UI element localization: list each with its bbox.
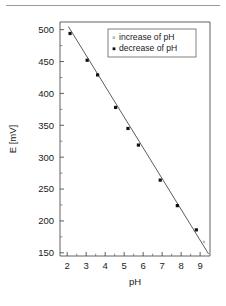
legend-marker-increase: [113, 36, 116, 39]
x-tick-label: 9: [197, 260, 202, 271]
y-tick-label: 300: [38, 152, 54, 163]
data-point: [203, 241, 205, 243]
regression-line: [68, 26, 208, 254]
chart-canvas: 150200250300350400450500 23456789 pH E […: [0, 0, 226, 306]
y-axis-title: E [mV]: [7, 125, 18, 154]
data-point: [126, 127, 129, 130]
x-tick-label: 6: [141, 260, 146, 271]
x-axis-title: pH: [129, 276, 141, 287]
y-tick-label: 200: [38, 215, 54, 226]
x-tick-label: 2: [65, 260, 70, 271]
y-tick-label: 150: [38, 247, 54, 258]
data-point: [176, 204, 179, 207]
ph-calibration-chart: 150200250300350400450500 23456789 pH E […: [0, 0, 226, 306]
x-tick-label: 5: [122, 260, 127, 271]
x-tick-label: 4: [103, 260, 108, 271]
series-increase-of-ph: [203, 241, 205, 243]
legend-label-decrease: decrease of pH: [119, 43, 177, 53]
data-point: [159, 179, 162, 182]
fit-line-group: [68, 26, 208, 254]
data-point: [137, 143, 140, 146]
data-point: [195, 228, 198, 231]
y-tick-label: 250: [38, 183, 54, 194]
x-tick-label: 7: [160, 260, 165, 271]
legend-marker-decrease: [113, 47, 116, 50]
x-axis-ticks: 23456789: [65, 252, 203, 271]
data-point: [86, 59, 89, 62]
data-point: [96, 73, 99, 76]
x-tick-label: 8: [178, 260, 183, 271]
data-point: [68, 32, 71, 35]
legend-label-increase: increase of pH: [119, 32, 174, 42]
chart-legend: increase of pH decrease of pH: [108, 29, 196, 57]
y-tick-label: 350: [38, 120, 54, 131]
y-tick-label: 400: [38, 88, 54, 99]
x-tick-label: 3: [84, 260, 89, 271]
y-tick-label: 450: [38, 56, 54, 67]
data-point: [114, 106, 117, 109]
y-tick-label: 500: [38, 24, 54, 35]
